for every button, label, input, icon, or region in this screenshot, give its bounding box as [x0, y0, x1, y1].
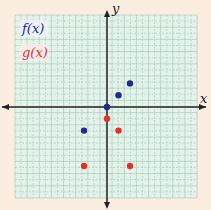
y-axis-arrow-up-icon	[104, 10, 110, 17]
data-point	[127, 80, 133, 86]
data-point	[115, 127, 121, 133]
data-point	[104, 104, 110, 110]
data-point	[115, 92, 121, 98]
legend-g: g(x)	[22, 45, 48, 60]
y-axis-arrow-down-icon	[104, 202, 110, 209]
coordinate-plane: x y f(x) g(x)	[0, 0, 211, 210]
data-point	[81, 127, 87, 133]
y-axis-label: y	[111, 1, 120, 16]
data-point	[127, 163, 133, 169]
legend-f: f(x)	[21, 21, 44, 36]
x-axis-arrow-left-icon	[2, 104, 9, 110]
data-point	[104, 116, 110, 122]
x-axis-label: x	[200, 91, 208, 106]
data-point	[81, 163, 87, 169]
